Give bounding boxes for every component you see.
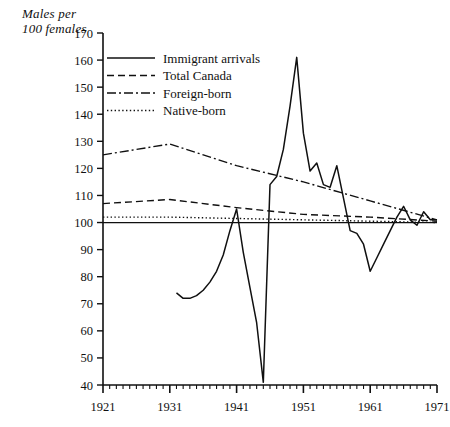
y-tick-label: 120 [74,162,93,176]
series-layer [103,57,437,382]
y-tick-label: 160 [74,54,93,68]
x-tick-label: 1951 [291,400,316,414]
legend-label-total-canada: Total Canada [163,68,232,83]
x-tick-label: 1921 [91,400,116,414]
legend-label-immigrant-arrivals: Immigrant arrivals [163,51,260,66]
y-tick-label: 100 [74,216,93,230]
y-tick-label: 70 [81,297,94,311]
series-line-foreign-born [103,144,437,220]
x-tick-label: 1961 [358,400,383,414]
line-chart: 4050607080901001101201301401501601701921… [0,0,450,427]
chart-container: Males per 100 females 405060708090100110… [0,0,450,427]
legend-label-foreign-born: Foreign-born [163,86,232,101]
y-tick-label: 170 [74,27,93,41]
y-tick-label: 110 [75,189,93,203]
axes-layer: 4050607080901001101201301401501601701921… [74,27,449,415]
y-tick-label: 40 [81,379,94,393]
y-tick-label: 50 [81,351,94,365]
y-tick-label: 90 [81,243,94,257]
x-tick-label: 1941 [224,400,249,414]
legend-label-native-born: Native-born [163,103,226,118]
y-tick-label: 130 [74,135,93,149]
y-tick-label: 80 [81,270,94,284]
y-tick-label: 140 [74,108,93,122]
x-tick-label: 1971 [425,400,450,414]
series-line-native-born [103,217,437,222]
x-tick-label: 1931 [157,400,182,414]
y-tick-label: 150 [74,81,93,95]
y-tick-label: 60 [81,324,94,338]
legend-layer: Immigrant arrivalsTotal CanadaForeign-bo… [107,51,260,119]
